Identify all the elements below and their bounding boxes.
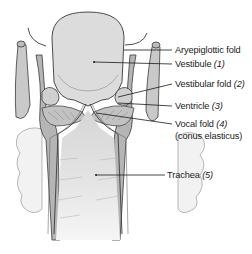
label-aryepiglottic-fold: Aryepiglottic fold bbox=[175, 45, 241, 56]
aryepiglottic-fold-left bbox=[28, 28, 46, 46]
vestibule-lumen bbox=[52, 12, 124, 106]
label-vestibular-fold: Vestibular fold (2) bbox=[175, 79, 245, 90]
label-ventricle: Ventricle (3) bbox=[175, 101, 223, 112]
aryepiglottic-fold-right bbox=[125, 33, 147, 45]
label-vestibule: Vestibule (1) bbox=[175, 59, 225, 70]
left-arytenoid bbox=[15, 41, 30, 119]
right-arytenoid bbox=[146, 42, 160, 121]
label-trachea: Trachea (5) bbox=[167, 170, 213, 181]
label-vocal-fold: Vocal fold (4) bbox=[175, 119, 227, 130]
label-conus-elasticus: (conus elasticus) bbox=[175, 131, 242, 142]
